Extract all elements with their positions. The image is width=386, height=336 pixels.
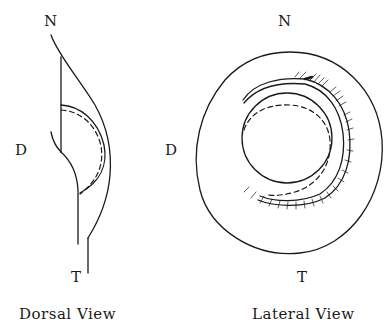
lateral-view-caption: Lateral View [252,307,355,322]
lateral-label-temporal: T [297,270,307,285]
dorsal-label-temporal: T [71,270,81,285]
drawing [0,0,386,336]
lateral-label-dorsal: D [165,143,177,158]
lateral-view-drawing [196,52,382,254]
lateral-outer-ellipse [196,52,382,254]
dorsal-hook [51,132,61,152]
dorsal-view-drawing [51,35,110,273]
lateral-label-nasal: N [278,14,291,29]
lateral-dashed-arc [244,105,330,195]
lateral-hatching [244,72,354,209]
dorsal-label-dorsal: D [15,143,27,158]
dorsal-lower-left-curve [61,152,78,244]
dorsal-view-caption: Dorsal View [19,307,116,322]
dorsal-inner-arc [61,105,105,193]
figure-canvas: N D T Dorsal View N D T Lateral View [0,0,386,336]
lateral-crescent-outer [243,79,350,206]
lateral-inner-circle [242,93,332,183]
dorsal-label-nasal: N [44,14,57,29]
